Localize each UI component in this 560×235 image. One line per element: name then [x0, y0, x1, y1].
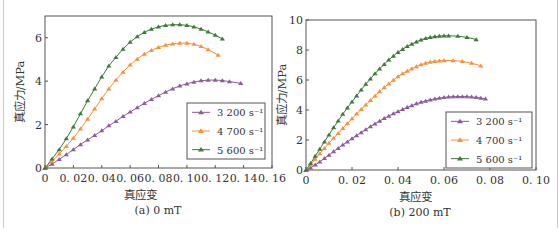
- data-marker-triangle: [317, 147, 322, 151]
- x-tick-label: 0. 04: [384, 174, 412, 187]
- x-tick-label: 0. 06: [430, 174, 458, 187]
- data-marker-triangle: [128, 110, 133, 114]
- x-tick-label: 0: [42, 172, 49, 185]
- data-marker-triangle: [142, 101, 147, 105]
- x-axis-title: 真应变: [124, 188, 157, 202]
- x-axis-title: 真应变: [399, 190, 432, 204]
- data-marker-triangle: [85, 137, 90, 141]
- y-tick-label: 0: [296, 164, 303, 177]
- data-marker-triangle: [64, 136, 69, 140]
- data-marker-triangle: [135, 105, 140, 109]
- y-tick-label: 2: [35, 119, 42, 132]
- data-marker-triangle: [92, 86, 97, 90]
- legend-label: 4 700 s⁻¹: [217, 126, 263, 137]
- chart-a-0mt: 00. 020. 040. 060. 080. 100. 120. 140. 1…: [13, 16, 286, 217]
- y-tick-label: 4: [35, 75, 42, 88]
- data-marker-triangle: [78, 111, 83, 115]
- panel-caption: (a) 0 mT: [135, 204, 183, 217]
- x-tick-label: 0. 02: [338, 174, 366, 187]
- x-tick-label: 0. 02: [59, 172, 87, 185]
- x-tick-label: 0. 10: [522, 174, 550, 187]
- data-marker-triangle: [215, 53, 220, 57]
- legend-label: 3 200 s⁻¹: [217, 107, 263, 118]
- legend: 3 200 s⁻¹4 700 s⁻¹5 600 s⁻¹: [187, 103, 265, 159]
- x-tick-label: 0. 06: [116, 172, 144, 185]
- data-marker-triangle: [400, 71, 405, 75]
- legend-label: 5 600 s⁻¹: [476, 154, 522, 165]
- data-marker-triangle: [405, 69, 410, 73]
- y-tick-label: 6: [35, 32, 42, 45]
- data-marker-triangle: [156, 93, 161, 97]
- data-marker-triangle: [71, 124, 76, 128]
- data-marker-triangle: [377, 119, 382, 123]
- y-tick-label: 8: [296, 44, 303, 57]
- data-marker-triangle: [99, 74, 104, 78]
- x-tick-label: 0. 08: [145, 172, 173, 185]
- y-tick-label: 6: [296, 74, 303, 87]
- y-axis-title: 真应力/MPa: [275, 63, 289, 126]
- data-marker-triangle: [57, 147, 62, 151]
- x-tick-label: 0. 16: [258, 172, 286, 185]
- data-marker-triangle: [386, 114, 391, 118]
- data-marker-triangle: [372, 121, 377, 125]
- data-marker-triangle: [331, 125, 336, 129]
- figure: 00. 020. 040. 060. 080. 100. 120. 140. 1…: [0, 0, 560, 235]
- data-marker-triangle: [322, 139, 327, 143]
- legend-label: 3 200 s⁻¹: [476, 116, 522, 127]
- data-marker-triangle: [368, 124, 373, 128]
- y-tick-label: 0: [35, 162, 42, 175]
- data-marker-triangle: [149, 97, 154, 101]
- data-marker-triangle: [220, 36, 225, 40]
- data-marker-triangle: [142, 52, 147, 56]
- legend: 3 200 s⁻¹4 700 s⁻¹5 600 s⁻¹: [446, 112, 532, 168]
- y-axis-title: 真应力/MPa: [13, 60, 27, 123]
- data-marker-triangle: [106, 123, 111, 127]
- y-tick-label: 10: [289, 14, 303, 27]
- data-marker-triangle: [92, 107, 97, 111]
- legend-label: 4 700 s⁻¹: [476, 135, 522, 146]
- x-tick-label: 0. 08: [476, 174, 504, 187]
- x-tick-label: 0. 10: [173, 172, 201, 185]
- legend-label: 5 600 s⁻¹: [217, 145, 263, 156]
- data-marker-triangle: [135, 34, 140, 38]
- data-marker-triangle: [313, 162, 318, 166]
- y-tick-label: 4: [296, 104, 303, 117]
- data-marker-triangle: [313, 154, 318, 158]
- x-tick-label: 0. 14: [230, 172, 258, 185]
- data-marker-triangle: [326, 132, 331, 136]
- data-marker-triangle: [382, 116, 387, 120]
- x-tick-label: 0. 04: [88, 172, 116, 185]
- data-marker-triangle: [120, 114, 125, 118]
- chart-b-200mt: 00. 020. 040. 060. 080. 100246810真应变真应力/…: [275, 14, 550, 219]
- x-tick-label: 0: [303, 174, 310, 187]
- data-marker-triangle: [85, 98, 90, 102]
- y-tick-label: 2: [296, 134, 303, 147]
- x-tick-label: 0. 12: [201, 172, 229, 185]
- panel-caption: (b) 200 mT: [389, 206, 451, 219]
